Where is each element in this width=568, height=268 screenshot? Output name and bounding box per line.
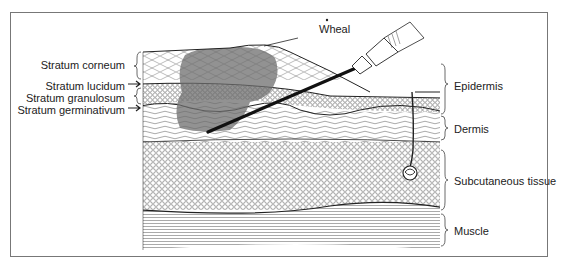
stratum-lucidum-arrow bbox=[128, 81, 140, 87]
wheal-pointer-line bbox=[264, 38, 298, 46]
stratum-granulosum-brace bbox=[134, 88, 141, 104]
label-dermis: Dermis bbox=[454, 123, 489, 135]
label-epidermis: Epidermis bbox=[454, 80, 503, 92]
dermis-brace bbox=[441, 116, 448, 140]
label-wheal: Wheal bbox=[319, 23, 350, 35]
subcutaneous-brace bbox=[441, 150, 448, 210]
epidermis-brace bbox=[441, 64, 448, 114]
label-muscle: Muscle bbox=[454, 225, 489, 237]
stratum-germinativum-arrow bbox=[128, 105, 140, 111]
label-stratum-granulosum: Stratum granulosum bbox=[26, 92, 125, 104]
stratum-corneum-brace bbox=[134, 52, 141, 79]
label-stratum-corneum: Stratum corneum bbox=[41, 59, 125, 71]
label-stratum-germinativum: Stratum germinativum bbox=[17, 104, 125, 116]
wheal-dot bbox=[326, 19, 328, 21]
label-subcutaneous-tissue: Subcutaneous tissue bbox=[454, 175, 556, 187]
label-stratum-lucidum: Stratum lucidum bbox=[46, 80, 125, 92]
tissue-layers bbox=[140, 40, 445, 252]
muscle-brace bbox=[441, 214, 448, 246]
